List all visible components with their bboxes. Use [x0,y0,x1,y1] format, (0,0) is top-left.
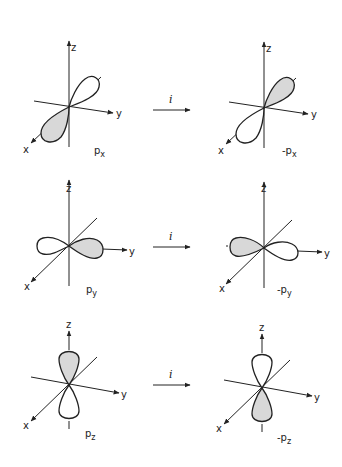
inversion-label: i [169,93,173,106]
y-axis [31,377,119,393]
z-label: z [66,183,71,194]
x-label: x [218,145,224,156]
inversion-label: i [169,368,173,381]
lobe-positive-z [252,355,272,389]
inversion-arrow-row2: i [153,230,190,247]
orbital-neg-pz: z y x [216,322,320,434]
lobe-negative-y-shaded [230,237,264,256]
label-neg-px: -px [282,145,297,159]
y-axis [224,380,312,396]
inversion-arrow-row1: i [153,93,190,110]
orbital-neg-py: z y x [219,182,330,294]
lobe-negative-y [37,237,69,254]
lobe-negative-z-shaded [252,388,272,422]
lobe-positive-y-shaded [69,238,103,258]
label-pz: pz [85,428,96,442]
x-label: x [24,281,30,292]
lobe-negative-x-shaded [41,107,69,142]
x-label: x [23,420,29,431]
y-label: y [121,389,127,400]
y-label: y [116,108,122,119]
y-label: y [314,392,320,403]
label-neg-pz: -pz [277,432,291,446]
z-label: z [71,42,76,53]
x-label: x [216,423,222,434]
z-label: z [259,322,264,333]
y-axis [297,251,322,252]
label-py: py [86,284,97,298]
orbital-pz: z y x [23,319,127,431]
x-label: x [219,283,225,294]
z-label: z [266,43,271,54]
lobe-positive-y [264,242,298,260]
orbital-py: z y x [24,180,135,292]
inversion-diagram: z y x px i z y x -px z y x py i [0,0,342,467]
inversion-arrow-row3: i [153,368,190,385]
lobe-positive-x-shaded [264,78,294,108]
lobe-positive-z-shaded [59,352,79,386]
orbital-neg-px: z y x [218,42,317,156]
y-label: y [324,248,330,259]
z-label: z [261,183,266,194]
inversion-label: i [169,230,173,243]
orbital-px: z y x [23,41,122,155]
y-label: y [311,109,317,120]
y-label: y [129,246,135,257]
lobe-positive-x [69,77,99,107]
lobe-negative-x [236,108,264,143]
y-axis [102,249,127,250]
z-label: z [66,319,71,330]
label-px: px [94,145,105,159]
x-label: x [23,144,29,155]
lobe-negative-z [59,385,79,419]
label-neg-py: -py [277,284,292,298]
